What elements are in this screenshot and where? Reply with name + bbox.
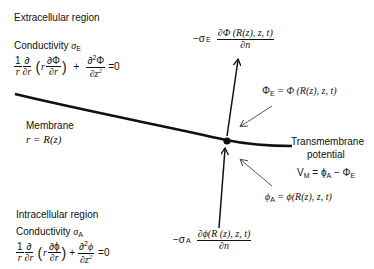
- equals-zero: =0: [98, 248, 109, 258]
- frac-den: ∂n: [217, 40, 274, 51]
- frac-den: ∂r: [25, 253, 34, 264]
- flux-bottom-equation: −σA ∂ϕ(R (z), z, t)∂n: [173, 229, 251, 251]
- sigma-sub: A: [186, 237, 191, 244]
- sigma-sub: E: [76, 45, 81, 52]
- frac-den: ∂n: [197, 241, 252, 252]
- exp: 2: [89, 253, 93, 261]
- pointer-phi-e: [241, 106, 272, 126]
- eq: = ϕ: [310, 167, 327, 178]
- vm: V: [297, 167, 304, 178]
- phi-a-rhs: = ϕ(R(z), z, t): [275, 191, 332, 202]
- normal-arrow-up: [227, 60, 238, 136]
- plus-sign: +: [74, 62, 80, 72]
- normal-arrow-below: [219, 149, 225, 228]
- exp: 2: [99, 67, 103, 75]
- phi-a-equation: ϕA = ϕ(R(z), z, t): [265, 192, 332, 203]
- intracellular-title: Intracellular region: [16, 210, 98, 220]
- frac-den: ∂r: [23, 67, 32, 78]
- frac-den: r: [16, 253, 24, 264]
- phi: Φ: [96, 55, 104, 66]
- phi-e-rhs: = Φ (R(z), z, t): [275, 85, 337, 96]
- flux-top-equation: −σE ∂Φ (R(z), z, t)∂n: [193, 28, 274, 50]
- frac-den: ∂r: [48, 253, 61, 264]
- phi-symbol: Φ: [262, 85, 270, 96]
- conductivity-label: Conductivity: [14, 40, 68, 51]
- dz: ∂z: [80, 254, 89, 265]
- phi-e-equation: ΦE = Φ (R(z), z, t): [262, 86, 337, 97]
- neg-sigma: −σ: [193, 34, 205, 44]
- pointer-phi-a: [241, 160, 272, 186]
- vm-equation: VM = ϕA − ΦE: [297, 168, 355, 179]
- membrane-equation: r = R(z): [26, 134, 62, 145]
- frac-num: ∂ϕ(R (z), z, t): [197, 229, 252, 241]
- plus-sign: +: [69, 248, 75, 258]
- frac-den: r: [14, 67, 22, 78]
- dz: ∂z: [90, 68, 99, 79]
- equals-zero: =0: [108, 62, 119, 72]
- transmembrane-label-1: Transmembrane: [291, 137, 364, 147]
- intracellular-conductivity: Conductivity σA: [16, 227, 83, 238]
- intracellular-laplace-equation: 1r ∂∂r (r ∂ϕ∂r ) + ∂2ϕ∂z2 =0: [16, 240, 110, 265]
- neg-sigma: −σ: [173, 235, 185, 245]
- extracellular-conductivity: Conductivity σE: [14, 41, 81, 52]
- phi: ϕ: [88, 241, 93, 252]
- frac-num: ∂Φ (R(z), z, t): [217, 28, 274, 40]
- membrane-point: [223, 137, 230, 144]
- extracellular-title: Extracellular region: [14, 13, 100, 23]
- sigma-sub: A: [78, 231, 83, 238]
- membrane-title: Membrane: [26, 121, 74, 131]
- transmembrane-label-2: potential: [307, 150, 345, 160]
- e-sub: E: [351, 172, 356, 179]
- extracellular-laplace-equation: 1r ∂∂r (r ∂Φ∂r ) + ∂2Φ∂z2 =0: [14, 54, 120, 79]
- conductivity-label: Conductivity: [16, 226, 70, 237]
- minus-phi: − Φ: [331, 167, 350, 178]
- sigma-sub: E: [206, 36, 211, 43]
- frac-den: ∂r: [46, 67, 61, 78]
